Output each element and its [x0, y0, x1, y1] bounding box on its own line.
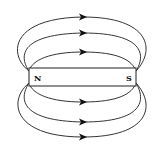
north-pole-label: N	[34, 73, 41, 83]
south-pole-label: S	[126, 73, 132, 83]
field-line-top-outer	[17, 17, 146, 71]
bar-magnet-field-diagram: N S	[0, 0, 160, 160]
bar-magnet	[29, 68, 136, 86]
field-line-bottom-outer	[18, 83, 146, 137]
